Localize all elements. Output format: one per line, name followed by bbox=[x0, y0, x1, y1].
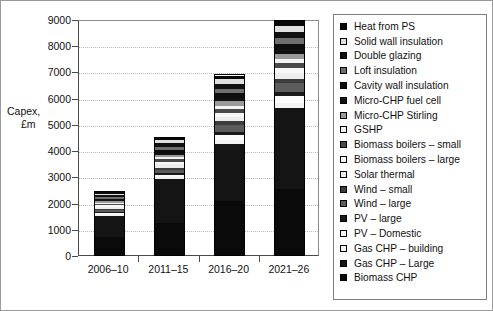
bar-2021-26[interactable] bbox=[275, 21, 304, 255]
legend-item[interactable]: Heat from PS bbox=[334, 19, 486, 34]
bar-segment bbox=[155, 223, 184, 255]
legend-item-label: Cavity wall insulation bbox=[354, 80, 449, 91]
bar-segment bbox=[275, 189, 304, 255]
y-tick-label: 0 bbox=[25, 251, 71, 261]
legend-swatch-icon bbox=[340, 67, 347, 74]
legend-swatch-icon bbox=[340, 23, 347, 30]
y-tick-label: 5000 bbox=[25, 120, 71, 130]
legend-item-label: Wind – small bbox=[354, 184, 412, 195]
y-tick-label: 1000 bbox=[25, 225, 71, 235]
legend-item[interactable]: Double glazing bbox=[334, 49, 486, 64]
y-axis-title-line1: Capex, bbox=[7, 105, 40, 117]
bar-segment bbox=[275, 83, 304, 92]
bar-segment bbox=[95, 237, 124, 255]
y-tick-mark bbox=[72, 256, 78, 257]
legend-item[interactable]: Cavity wall insulation bbox=[334, 78, 486, 93]
legend-swatch-icon bbox=[340, 126, 347, 133]
legend-swatch-icon bbox=[340, 141, 347, 148]
y-tick-label: 2000 bbox=[25, 199, 71, 209]
legend-item-label: Biomass boilers – small bbox=[354, 139, 461, 150]
legend-swatch-icon bbox=[340, 274, 347, 281]
legend-item-label: Biomass CHP bbox=[354, 272, 417, 283]
y-tick-label: 3000 bbox=[25, 172, 71, 182]
plot-area bbox=[78, 20, 319, 256]
legend-swatch-icon bbox=[340, 97, 347, 104]
bar-segment bbox=[275, 108, 304, 189]
legend-item[interactable]: PV – large bbox=[334, 211, 486, 226]
legend-swatch-icon bbox=[340, 260, 347, 267]
legend-swatch-icon bbox=[340, 52, 347, 59]
legend-item-label: PV – Domestic bbox=[354, 228, 421, 239]
x-tick-mark bbox=[138, 256, 139, 262]
legend-item-label: Wind – large bbox=[354, 198, 411, 209]
chart-legend: Heat from PSSolid wall insulationDouble … bbox=[333, 14, 487, 300]
x-tick-mark bbox=[259, 256, 260, 262]
legend-swatch-icon bbox=[340, 230, 347, 237]
chart-figure: Capex, £m 900080007000600050004000300020… bbox=[0, 0, 493, 311]
legend-item-label: Solar thermal bbox=[354, 169, 415, 180]
legend-item-label: Micro-CHP Stirling bbox=[354, 110, 438, 121]
legend-item[interactable]: Biomass CHP bbox=[334, 271, 486, 286]
legend-item-label: PV – large bbox=[354, 213, 402, 224]
bar-2006-10[interactable] bbox=[95, 192, 124, 255]
y-tick-label: 4000 bbox=[25, 146, 71, 156]
legend-item[interactable]: Wind – small bbox=[334, 182, 486, 197]
legend-swatch-icon bbox=[340, 38, 347, 45]
legend-item[interactable]: Micro-CHP fuel cell bbox=[334, 93, 486, 108]
y-tick-label: 9000 bbox=[25, 15, 71, 25]
legend-item-label: Loft insulation bbox=[354, 65, 417, 76]
bar-segment bbox=[215, 144, 244, 202]
legend-swatch-icon bbox=[340, 245, 347, 252]
legend-item[interactable]: Solar thermal bbox=[334, 167, 486, 182]
legend-swatch-icon bbox=[340, 112, 347, 119]
legend-item-label: Heat from PS bbox=[354, 21, 415, 32]
legend-item[interactable]: Biomass boilers – large bbox=[334, 152, 486, 167]
bar-segment bbox=[95, 216, 124, 237]
y-tick-label: 7000 bbox=[25, 67, 71, 77]
legend-item-label: GSHP bbox=[354, 124, 383, 135]
legend-item[interactable]: Biomass boilers – small bbox=[334, 137, 486, 152]
bar-segment bbox=[215, 201, 244, 255]
bar-segment bbox=[275, 96, 304, 104]
legend-swatch-icon bbox=[340, 82, 347, 89]
y-tick-label: 6000 bbox=[25, 94, 71, 104]
legend-item[interactable]: PV – Domestic bbox=[334, 226, 486, 241]
legend-swatch-icon bbox=[340, 215, 347, 222]
legend-swatch-icon bbox=[340, 156, 347, 163]
legend-item[interactable]: Loft insulation bbox=[334, 63, 486, 78]
y-tick-label: 8000 bbox=[25, 41, 71, 51]
legend-item-label: Gas CHP – Large bbox=[354, 258, 434, 269]
x-tick-label: 2021–26 bbox=[254, 263, 324, 275]
legend-item[interactable]: GSHP bbox=[334, 123, 486, 138]
legend-swatch-icon bbox=[340, 186, 347, 193]
legend-item[interactable]: Wind – large bbox=[334, 197, 486, 212]
bar-2011-15[interactable] bbox=[155, 138, 184, 255]
legend-item-label: Micro-CHP fuel cell bbox=[354, 95, 441, 106]
bar-segment bbox=[215, 125, 244, 132]
legend-item-label: Solid wall insulation bbox=[354, 36, 443, 47]
legend-swatch-icon bbox=[340, 171, 347, 178]
legend-item[interactable]: Gas CHP – building bbox=[334, 241, 486, 256]
x-tick-mark bbox=[199, 256, 200, 262]
legend-item[interactable]: Gas CHP – Large bbox=[334, 256, 486, 271]
legend-item-label: Biomass boilers – large bbox=[354, 154, 460, 165]
legend-item[interactable]: Micro-CHP Stirling bbox=[334, 108, 486, 123]
legend-swatch-icon bbox=[340, 200, 347, 207]
legend-item-label: Gas CHP – building bbox=[354, 243, 443, 254]
bar-2016-20[interactable] bbox=[215, 75, 244, 255]
bar-segment bbox=[155, 179, 184, 223]
legend-item-label: Double glazing bbox=[354, 50, 421, 61]
legend-item[interactable]: Solid wall insulation bbox=[334, 34, 486, 49]
